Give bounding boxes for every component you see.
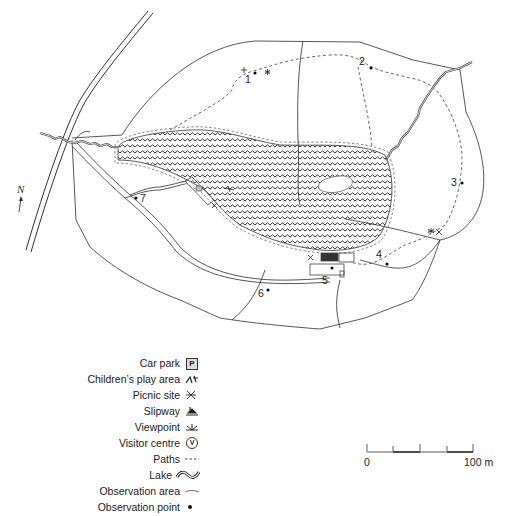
picnic-icon-south (308, 255, 313, 260)
svg-text:2: 2 (359, 55, 365, 67)
observation-point-7: 7 (134, 192, 146, 204)
north-arrow: N (16, 183, 25, 212)
legend-item-car-park: Car park P (140, 356, 200, 370)
play-area-icon (184, 373, 200, 385)
picnic-icon-east (436, 229, 442, 235)
observation-area-icon (184, 485, 200, 497)
svg-text:6: 6 (258, 287, 264, 299)
observation-point-4: 4 (376, 248, 389, 266)
observation-point-2: 2 (359, 55, 373, 70)
legend-item-paths: Paths (153, 452, 200, 466)
observation-point-icon (184, 501, 200, 513)
observation-point-5: 5 (322, 266, 334, 286)
observation-point-3: 3 (451, 176, 464, 188)
picnic-icon-west (212, 203, 217, 208)
svg-text:1: 1 (245, 73, 251, 85)
observation-point-6: 6 (258, 287, 270, 299)
paths-icon (184, 453, 200, 465)
legend-item-play-area: Children’s play area (87, 372, 200, 386)
scale-end-label: 100 m (464, 456, 493, 468)
visitor-centre-complex[interactable] (310, 253, 354, 277)
viewpoint-icon (184, 421, 200, 433)
legend-item-lake: Lake (149, 468, 200, 482)
legend-item-viewpoint: Viewpoint (135, 420, 200, 434)
lake-icon (176, 469, 200, 481)
park-map: 1 2 3 4 5 6 7 N (0, 0, 509, 516)
svg-text:4: 4 (376, 248, 382, 260)
svg-text:3: 3 (451, 176, 457, 188)
observation-point-1: 1 (245, 71, 257, 85)
svg-text:7: 7 (140, 192, 146, 204)
slipway-icon (184, 405, 200, 417)
svg-text:N: N (16, 183, 25, 195)
picnic-icon (184, 389, 200, 401)
car-park-icon: P (184, 357, 200, 369)
viewpoint-icon-north (265, 69, 270, 75)
svg-text:5: 5 (322, 274, 328, 286)
legend-item-visitor-centre: Visitor centre V (119, 436, 200, 450)
scale-start-label: 0 (364, 456, 370, 468)
viewpoint-icon-east (428, 228, 434, 234)
legend-item-picnic-site: Picnic site (133, 388, 200, 402)
legend-item-slipway: Slipway (144, 404, 200, 418)
legend-item-observation-area: Observation area (99, 484, 200, 498)
legend-item-observation-point: Observation point (98, 500, 200, 514)
scale-bar: 0 100 m (360, 440, 509, 480)
visitor-centre-icon: V (184, 437, 200, 449)
